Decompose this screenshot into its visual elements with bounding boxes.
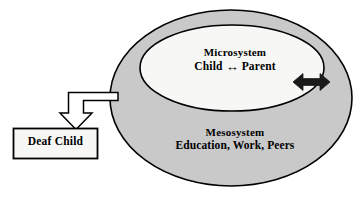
mesosystem-title: Mesosystem — [155, 126, 315, 138]
left-right-arrow-icon: ↔ — [223, 59, 242, 74]
diagram-canvas: Microsystem Child↔Parent Mesosystem Educ… — [0, 0, 364, 201]
microsystem-child-node: Child — [194, 60, 223, 72]
deaf-child-label: Deaf Child — [13, 135, 98, 148]
microsystem-title: Microsystem — [160, 46, 310, 58]
microsystem-relation: Child↔Parent — [160, 59, 310, 74]
microsystem-parent-node: Parent — [242, 60, 276, 72]
mesosystem-to-deaf-child-arrow — [60, 93, 118, 130]
ecological-systems-diagram — [0, 0, 364, 201]
mesosystem-subtitle: Education, Work, Peers — [145, 139, 325, 152]
